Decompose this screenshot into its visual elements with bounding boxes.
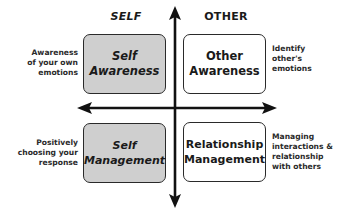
quadrant-title-line2: Awareness <box>189 64 259 79</box>
description-other-awareness: Identify other's emotions <box>272 44 342 74</box>
description-line: Identify <box>272 44 342 54</box>
description-line: choosing your <box>0 148 78 158</box>
description-line: relationship <box>272 152 342 162</box>
description-line: other's <box>272 54 342 64</box>
quadrant-self-awareness: Self Awareness <box>83 34 166 94</box>
axes <box>0 0 346 216</box>
horizontal-axis-arrow <box>77 102 277 114</box>
description-line: emotions <box>0 68 78 78</box>
quadrant-title-line1: Self <box>113 138 137 153</box>
arrow-down-icon <box>169 194 181 208</box>
description-line: Awareness <box>0 48 78 58</box>
quadrant-title-line1: Relationship <box>186 137 264 152</box>
description-line: with others <box>272 162 342 172</box>
quadrant-other-awareness: Other Awareness <box>183 34 266 94</box>
description-line: response <box>0 158 78 168</box>
description-line: emotions <box>272 64 342 74</box>
quadrant-title-line1: Other <box>206 49 243 64</box>
description-line: Managing <box>272 132 342 142</box>
arrow-up-icon <box>169 6 181 20</box>
quadrant-title-line2: Management <box>84 153 165 168</box>
quadrant-self-management: Self Management <box>83 123 166 183</box>
quadrant-title-line2: Awareness <box>90 64 160 79</box>
arrow-right-icon <box>262 102 277 114</box>
description-relationship-management: Managing interactions & relationship wit… <box>272 132 342 172</box>
quadrant-title-line1: Self <box>112 49 137 64</box>
description-self-management: Positively choosing your response <box>0 138 78 168</box>
arrow-left-icon <box>77 102 92 114</box>
description-line: interactions & <box>272 142 342 152</box>
description-line: of your own <box>0 58 78 68</box>
column-header-self: SELF <box>103 10 149 23</box>
vertical-axis-arrow <box>169 6 181 208</box>
quadrant-title-line2: Management <box>184 152 265 167</box>
description-self-awareness: Awareness of your own emotions <box>0 48 78 78</box>
description-line: Positively <box>0 138 78 148</box>
column-header-other: OTHER <box>201 10 251 23</box>
quadrant-relationship-management: Relationship Management <box>183 122 266 182</box>
